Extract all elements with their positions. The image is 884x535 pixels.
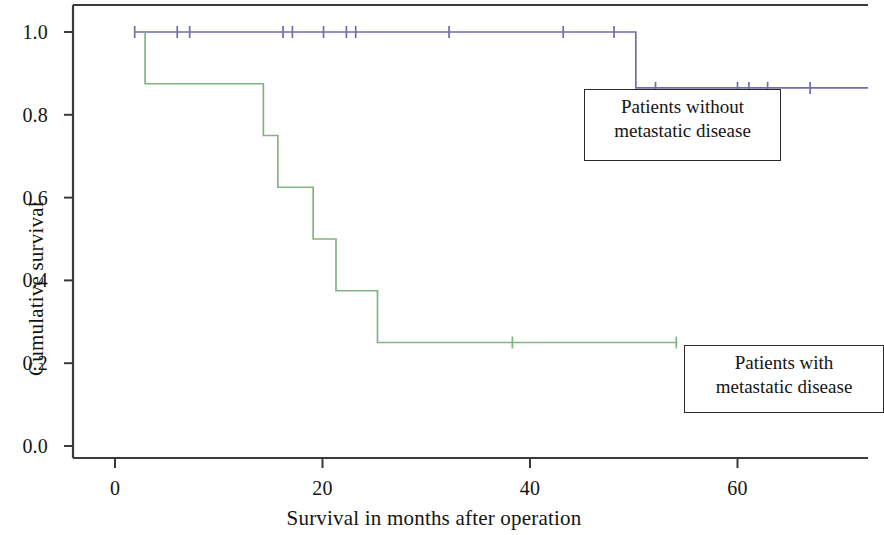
y-tick-label-0-8: 0.8 (0, 105, 48, 125)
y-axis-title: Cumulative survival (24, 201, 49, 376)
x-tick-label-0: 0 (85, 478, 145, 498)
legend-label-without-metastatic-disease: Patients without metastatic disease (584, 89, 781, 161)
legend-label-without-line1: Patients without (621, 96, 744, 117)
x-tick-label-60: 60 (708, 478, 768, 498)
legend-label-with-line1: Patients with (735, 352, 834, 373)
series-layer (135, 26, 868, 349)
legend-label-with-metastatic-disease: Patients with metastatic disease (684, 345, 884, 413)
step-line (135, 32, 868, 88)
step-line (145, 32, 677, 343)
x-axis-ticks (115, 458, 738, 468)
x-tick-label-40: 40 (500, 478, 560, 498)
legend-label-with-line2: metastatic disease (685, 375, 883, 399)
y-axis-ticks (64, 32, 73, 446)
y-tick-label-0-0: 0.0 (0, 436, 48, 456)
x-tick-label-20: 20 (293, 478, 353, 498)
y-tick-label-1-0: 1.0 (0, 22, 48, 42)
x-axis-title: Survival in months after operation (0, 506, 868, 531)
series-with-metastatic-disease (145, 32, 677, 349)
legend-label-without-line2: metastatic disease (585, 119, 780, 143)
